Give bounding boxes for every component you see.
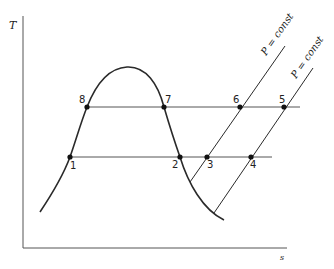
diagram-canvas: T s P = const P = const 1 2 3 4 5 6 7 8 [0, 0, 334, 269]
point-label-2: 2 [172, 159, 178, 170]
point-label-4: 4 [250, 159, 256, 170]
point-label-6: 6 [233, 94, 239, 105]
state-point-1 [67, 154, 72, 159]
state-point-8 [84, 104, 89, 109]
x-axis-label: s [280, 253, 284, 262]
state-point-5 [281, 104, 286, 109]
point-label-1: 1 [70, 160, 76, 171]
ts-diagram: T s P = const P = const 1 2 3 4 5 6 7 8 [0, 0, 334, 269]
pressure-line-2-label: P = const [288, 33, 326, 81]
y-axis-label: T [9, 19, 18, 32]
point-label-8: 8 [79, 94, 85, 105]
pressure-line-2 [214, 68, 313, 213]
saturation-dome [40, 67, 224, 220]
pressure-line-1-label: P = const [258, 10, 296, 58]
state-point-6 [237, 104, 242, 109]
state-point-7 [161, 104, 166, 109]
point-label-5: 5 [279, 94, 285, 105]
point-label-3: 3 [207, 159, 213, 170]
point-label-7: 7 [165, 94, 171, 105]
pressure-line-1 [190, 46, 285, 182]
